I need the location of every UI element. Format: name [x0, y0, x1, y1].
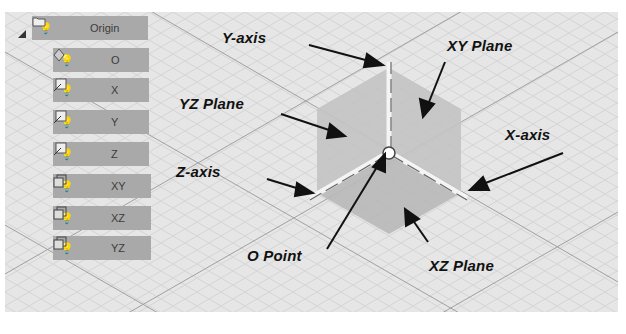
tree-item-yz[interactable]: 💡 YZ: [53, 236, 151, 260]
tree-item-z[interactable]: 💡 Z: [53, 142, 149, 166]
tree-item-label: O: [111, 54, 120, 66]
tree-item-y[interactable]: 💡 Y: [53, 110, 149, 134]
callout-xy-plane: XY Plane: [447, 37, 513, 54]
tree-item-label: XY: [111, 180, 126, 192]
tree-item-xz[interactable]: 💡 XZ: [53, 206, 151, 230]
callout-z-axis: Z-axis: [176, 163, 221, 180]
tree-item-label: X: [111, 84, 118, 96]
tree-item-label: XZ: [111, 212, 125, 224]
callout-x-axis: X-axis: [505, 126, 550, 143]
callout-y-axis: Y-axis: [222, 29, 266, 46]
tree-item-label: Origin: [90, 22, 119, 34]
tree-item-origin[interactable]: 💡 Origin: [32, 16, 148, 40]
tree-item-x[interactable]: 💡 X: [53, 78, 149, 102]
tree-item-label: YZ: [111, 242, 125, 254]
callout-yz-plane: YZ Plane: [179, 95, 244, 112]
tree-item-label: Z: [111, 148, 118, 160]
tree-item-o[interactable]: 💡 O: [53, 48, 149, 72]
tree-item-xy[interactable]: 💡 XY: [53, 174, 151, 198]
collapse-triangle-icon[interactable]: [18, 30, 26, 38]
tree-item-label: Y: [111, 116, 118, 128]
3d-viewport[interactable]: 💡 Origin 💡 O 💡 X 💡 Y: [5, 12, 618, 312]
callout-xz-plane: XZ Plane: [429, 257, 494, 274]
callout-o-point: O Point: [247, 247, 302, 264]
